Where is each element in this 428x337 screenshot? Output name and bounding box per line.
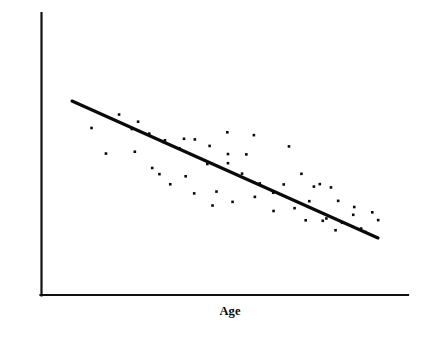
data-point [300,173,303,176]
data-point [227,153,230,156]
data-point [194,138,197,141]
x-axis-label: Age [180,303,280,319]
data-point [162,141,165,144]
data-point [131,128,134,131]
data-point [193,192,196,195]
data-point [231,201,234,204]
data-point [360,227,363,230]
data-point [90,127,93,130]
data-point [272,191,275,194]
data-point [118,113,121,116]
data-point [183,137,186,140]
data-point [334,229,337,232]
data-point [330,186,333,189]
data-point [304,219,307,222]
data-point [178,147,181,150]
data-point [254,196,257,199]
data-point [293,207,296,210]
data-point [308,200,311,203]
data-point [282,183,285,186]
data-point [253,134,256,137]
data-point [215,190,218,193]
data-point [288,145,291,148]
data-point [272,210,275,213]
scatter-plot-figure: Rate of healing Age [0,0,428,337]
data-point [353,206,356,209]
data-point [208,145,211,148]
plot-canvas [0,0,428,337]
data-point [321,219,324,222]
data-point [226,131,229,134]
data-point [158,173,161,176]
data-point [227,162,230,165]
data-point [313,185,316,188]
data-point [134,150,137,153]
data-point [337,200,340,203]
figure-background [0,0,428,337]
data-point [241,172,244,175]
data-point [151,167,154,170]
data-point [245,153,248,156]
data-point [377,219,380,222]
data-point [352,214,355,217]
data-point [211,204,214,207]
data-point [325,217,328,220]
data-point [137,120,140,123]
data-point [371,211,374,214]
data-point [364,231,367,234]
data-point [319,183,322,186]
data-point [105,152,108,155]
data-point [341,221,344,224]
data-point [258,182,261,185]
data-point [169,183,172,186]
data-point [206,163,209,166]
data-point [184,175,187,178]
data-point [148,132,151,135]
